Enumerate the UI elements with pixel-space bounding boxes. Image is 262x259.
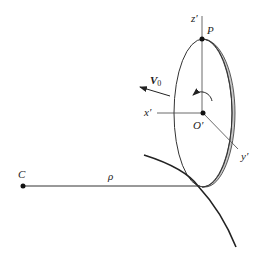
label-center: C <box>18 168 26 180</box>
disk-rim <box>202 39 235 187</box>
point-center <box>21 184 26 189</box>
label-y-axis: y′ <box>240 150 249 162</box>
label-z-axis: z′ <box>190 12 198 24</box>
label-radius: ρ <box>107 170 113 182</box>
label-velocity: V0 <box>150 74 161 88</box>
rolling-disk-diagram: z′ P V0 x′ O′ y′ C ρ <box>0 0 262 259</box>
label-p: P <box>206 24 214 36</box>
velocity-arrow-icon <box>140 87 170 96</box>
label-x-axis: x′ <box>143 106 152 118</box>
label-origin: O′ <box>193 119 204 131</box>
rotation-arrow-icon <box>193 92 212 101</box>
point-origin <box>201 111 206 116</box>
point-p <box>200 37 205 42</box>
